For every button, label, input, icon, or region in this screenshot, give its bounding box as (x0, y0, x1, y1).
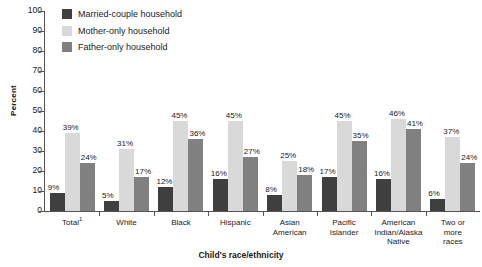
bar-column: 41% (406, 11, 421, 211)
y-tick-label: 80 (20, 45, 42, 55)
x-axis-category-line: White (99, 218, 153, 228)
bar-value-label: 39% (63, 123, 79, 132)
bar-value-label: 5% (102, 191, 114, 200)
bar (213, 179, 228, 211)
y-tick-label: 0 (20, 205, 42, 215)
bar (376, 179, 391, 211)
bar (322, 177, 337, 211)
bar-column: 5% (104, 11, 119, 211)
bar-group: 16%46%41% (376, 11, 421, 211)
bar-group-bars: 8%25%18% (267, 11, 312, 211)
bar-group-bars: 5%31%17% (104, 11, 149, 211)
bar-value-label: 45% (226, 111, 242, 120)
bar-column: 45% (173, 11, 188, 211)
bar (391, 119, 406, 211)
bar-group: 17%45%35% (322, 11, 367, 211)
bar-group: 5%31%17% (104, 11, 149, 211)
x-axis-category-line: races (426, 237, 480, 247)
y-tick-label: 50 (20, 105, 42, 115)
y-tick-mark (39, 171, 44, 172)
x-tick-mark (317, 211, 318, 216)
x-axis-category-label: White (99, 218, 153, 228)
bar-value-label: 45% (335, 111, 351, 120)
y-tick-label: 60 (20, 85, 42, 95)
bar (104, 201, 119, 211)
bar-group-bars: 16%45%27% (213, 11, 258, 211)
bar (80, 163, 95, 211)
bar-value-label: 37% (443, 127, 459, 136)
bar-column: 8% (267, 11, 282, 211)
bar-value-label: 46% (389, 109, 405, 118)
bar (460, 163, 475, 211)
bar-group: 16%45%27% (213, 11, 258, 211)
bar (445, 137, 460, 211)
x-axis-category-label: AsianAmerican (263, 218, 317, 237)
bar-value-label: 41% (407, 119, 423, 128)
x-tick-mark (154, 211, 155, 216)
x-axis-category-label: Two ormoreraces (426, 218, 480, 247)
x-axis-category-label: Total1 (45, 218, 99, 228)
x-axis-category-line: American (371, 218, 425, 228)
bar-value-label: 36% (189, 129, 205, 138)
x-axis-category-line: Total1 (45, 218, 99, 228)
y-tick-label: 90 (20, 25, 42, 35)
y-axis-title: Percent (9, 66, 18, 136)
bar-value-label: 24% (461, 153, 477, 162)
bar-value-label: 18% (298, 165, 314, 174)
bar (352, 141, 367, 211)
x-axis-category-label: AmericanIndian/AlaskaNative (371, 218, 425, 247)
bar (119, 149, 134, 211)
bar-column: 45% (228, 11, 243, 211)
bar (188, 139, 203, 211)
bar-chart: Percent 1009080706050403020100 Married-c… (0, 0, 482, 267)
bar-value-label: 9% (48, 183, 60, 192)
bar-value-label: 12% (156, 177, 172, 186)
bar-column: 37% (445, 11, 460, 211)
y-tick-label: 20 (20, 165, 42, 175)
y-tick-mark (39, 51, 44, 52)
y-tick-mark (39, 31, 44, 32)
bar-column: 27% (243, 11, 258, 211)
x-axis-category-line: American (263, 228, 317, 238)
bar-group: 9%39%24% (50, 11, 95, 211)
y-tick-mark (39, 151, 44, 152)
bar-column: 9% (50, 11, 65, 211)
bar-column: 31% (119, 11, 134, 211)
bar (65, 133, 80, 211)
x-axis-category-label: Hispanic (208, 218, 262, 228)
y-tick-label: 100 (20, 5, 42, 15)
bar-column: 6% (430, 11, 445, 211)
y-tick-label: 10 (20, 185, 42, 195)
x-tick-mark (208, 211, 209, 216)
bar-value-label: 17% (320, 167, 336, 176)
y-tick-label: 30 (20, 145, 42, 155)
bar (50, 193, 65, 211)
bar-column: 24% (80, 11, 95, 211)
bar (337, 121, 352, 211)
bar-value-label: 27% (244, 147, 260, 156)
x-axis-category-line: Islander (317, 228, 371, 238)
x-axis-category-line: Indian/Alaska (371, 228, 425, 238)
x-axis-category-label: PacificIslander (317, 218, 371, 237)
bar (158, 187, 173, 211)
bar-value-label: 31% (117, 139, 133, 148)
bar-column: 45% (337, 11, 352, 211)
bar-group-bars: 6%37%24% (430, 11, 475, 211)
x-axis-category-line: Two or (426, 218, 480, 228)
x-axis-category-label: Black (154, 218, 208, 228)
x-tick-mark (426, 211, 427, 216)
plot-area: 9%39%24%5%31%17%12%45%36%16%45%27%8%25%1… (45, 11, 480, 211)
x-axis-title: Child's race/ethnicity (0, 250, 482, 260)
bar-value-label: 16% (374, 169, 390, 178)
bar-group-bars: 17%45%35% (322, 11, 367, 211)
bar-value-label: 24% (81, 153, 97, 162)
bar-column: 39% (65, 11, 80, 211)
bar-value-label: 6% (428, 189, 440, 198)
x-tick-mark (371, 211, 372, 216)
x-axis-category-line: Asian (263, 218, 317, 228)
bar-value-label: 17% (135, 167, 151, 176)
bar-column: 36% (188, 11, 203, 211)
bar (430, 199, 445, 211)
bar-column: 35% (352, 11, 367, 211)
y-tick-mark (39, 91, 44, 92)
